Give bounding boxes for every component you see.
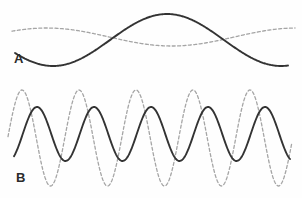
waveform-figure: A B <box>0 0 302 198</box>
waveform-canvas <box>0 0 302 198</box>
panel-label-a: A <box>14 52 23 65</box>
panel-label-b: B <box>16 171 25 184</box>
figure-background <box>0 0 302 198</box>
